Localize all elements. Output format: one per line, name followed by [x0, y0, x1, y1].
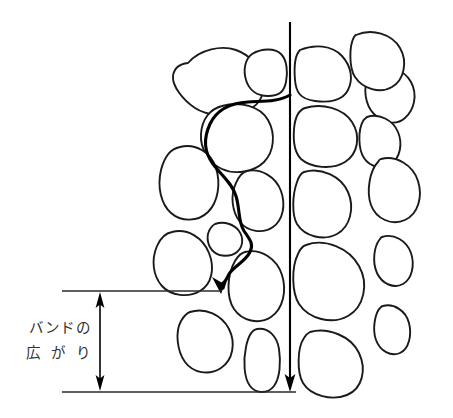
particle [369, 158, 420, 222]
particle [350, 32, 404, 90]
particle [154, 231, 212, 295]
particle [178, 311, 233, 373]
particle [294, 106, 358, 167]
particle [293, 171, 351, 238]
particle [228, 251, 284, 321]
particle [374, 305, 410, 354]
particle-group-right [293, 32, 420, 397]
particle [299, 331, 363, 398]
band-broadening-label-line1: バンドの [14, 316, 106, 341]
figure-root: バンドの 広 が り [0, 0, 453, 418]
particle [374, 236, 413, 286]
band-broadening-label: バンドの 広 が り [14, 316, 106, 366]
particle [245, 50, 287, 97]
particle [293, 243, 364, 320]
particle [208, 223, 243, 256]
particle [244, 329, 280, 392]
particle [295, 46, 351, 101]
band-broadening-label-line2: 広 が り [14, 341, 106, 366]
